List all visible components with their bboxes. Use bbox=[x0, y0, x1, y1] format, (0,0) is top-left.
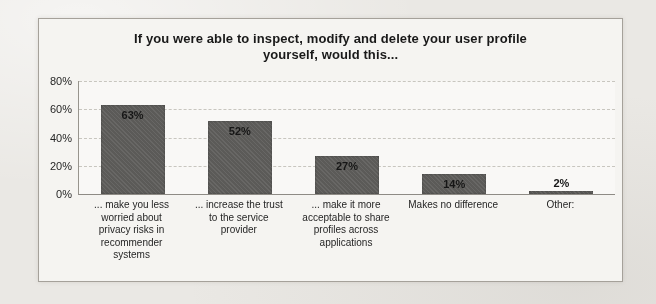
bar-slot-increase-trust: 52% bbox=[186, 81, 293, 194]
y-tick-label-0: 0% bbox=[32, 188, 72, 200]
x-axis-category-label-increase-trust: ... increase the trustto the serviceprov… bbox=[185, 199, 292, 262]
chart-title: If you were able to inspect, modify and … bbox=[39, 31, 622, 63]
bar-slot-worried-less: 63% bbox=[79, 81, 186, 194]
x-axis-category-label-line: systems bbox=[81, 249, 182, 262]
y-tick-label-80: 80% bbox=[32, 75, 72, 87]
x-axis-category-label-line: Other: bbox=[510, 199, 611, 212]
bar-slot-other: 2% bbox=[508, 81, 615, 194]
bar-value-label: 63% bbox=[79, 109, 186, 121]
x-axis-category-label-line: worried about bbox=[81, 212, 182, 225]
chart-title-line1: If you were able to inspect, modify and … bbox=[39, 31, 622, 47]
chart-title-line2: yourself, would this... bbox=[39, 47, 622, 63]
bar-value-label: 2% bbox=[508, 177, 615, 189]
x-axis-category-label-line: ... make it more bbox=[295, 199, 396, 212]
x-axis-category-label-line: privacy risks in bbox=[81, 224, 182, 237]
bar-value-label: 27% bbox=[293, 160, 400, 172]
x-axis-category-label-no-difference: Makes no difference bbox=[400, 199, 507, 262]
bar-slot-share-profiles: 27% bbox=[293, 81, 400, 194]
x-axis-category-label-line: provider bbox=[188, 224, 289, 237]
scanned-survey-bar-chart: If you were able to inspect, modify and … bbox=[0, 0, 656, 304]
bar-slot-no-difference: 14% bbox=[401, 81, 508, 194]
x-axis-category-label-line: recommender bbox=[81, 237, 182, 250]
bar-value-label: 14% bbox=[401, 178, 508, 190]
bar-value-label: 52% bbox=[186, 125, 293, 137]
x-axis-category-label-line: profiles across bbox=[295, 224, 396, 237]
y-tick-label-20: 20% bbox=[32, 160, 72, 172]
x-axis-labels: ... make you lessworried aboutprivacy ri… bbox=[78, 199, 614, 262]
y-tick-label-40: 40% bbox=[32, 132, 72, 144]
plot-area: 80% 60% 40% 20% 0% 63% 52% 27% bbox=[78, 81, 615, 195]
bars-container: 63% 52% 27% 14% 2% bbox=[79, 81, 615, 194]
x-axis-category-label-line: Makes no difference bbox=[403, 199, 504, 212]
x-axis-category-label-line: applications bbox=[295, 237, 396, 250]
bar-other bbox=[529, 191, 593, 194]
x-axis-category-label-share-profiles: ... make it moreacceptable to shareprofi… bbox=[292, 199, 399, 262]
x-axis-category-label-other: Other: bbox=[507, 199, 614, 262]
chart-frame: If you were able to inspect, modify and … bbox=[38, 18, 623, 282]
x-axis-category-label-line: ... make you less bbox=[81, 199, 182, 212]
y-tick-label-60: 60% bbox=[32, 103, 72, 115]
x-axis-category-label-line: acceptable to share bbox=[295, 212, 396, 225]
x-axis-category-label-worried-less: ... make you lessworried aboutprivacy ri… bbox=[78, 199, 185, 262]
x-axis-category-label-line: to the service bbox=[188, 212, 289, 225]
x-axis-category-label-line: ... increase the trust bbox=[188, 199, 289, 212]
